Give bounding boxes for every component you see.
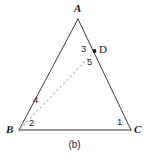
triangle-diagram-svg — [0, 0, 149, 157]
geometry-figure: A B C D 1 2 3 4 5 (b) — [0, 0, 149, 157]
point-d-marker — [93, 49, 97, 53]
vertex-label-c: C — [134, 124, 141, 135]
angle-label-2: 2 — [29, 118, 34, 128]
vertex-label-a: A — [74, 3, 81, 14]
point-label-d: D — [99, 44, 107, 55]
angle-label-1: 1 — [117, 117, 122, 127]
vertex-label-b: B — [6, 124, 13, 135]
segment-ac — [78, 19, 131, 130]
angle-label-5: 5 — [87, 57, 92, 67]
figure-caption: (b) — [0, 140, 149, 150]
segment-ab — [19, 19, 78, 130]
angle-label-3: 3 — [81, 44, 86, 54]
angle-label-4: 4 — [33, 95, 38, 105]
